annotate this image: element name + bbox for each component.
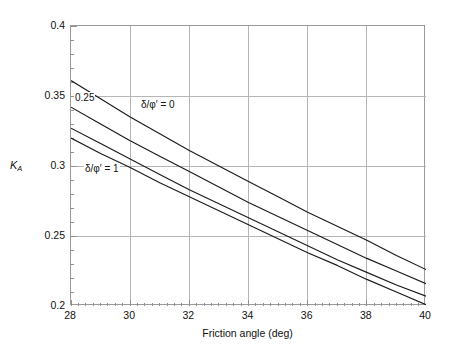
annotation-delta-phi-1: δ/φ′ = 1	[84, 163, 120, 174]
curve-2	[71, 128, 426, 296]
y-tick-label: 0.35	[45, 90, 65, 101]
y-tick-label: 0.2	[50, 300, 65, 311]
y-tick-label: 0.3	[50, 160, 65, 171]
y-axis-title: KA	[10, 159, 36, 173]
x-axis-tick-labels: 28303234363840	[0, 310, 454, 326]
plot-area	[70, 25, 425, 305]
data-curves	[71, 26, 426, 306]
x-tick-label: 32	[182, 310, 194, 321]
x-tick-label: 28	[64, 310, 76, 321]
chart-figure: 0.20.250.30.350.4 28303234363840 Frictio…	[0, 0, 454, 354]
y-tick-label: 0.25	[45, 230, 65, 241]
x-tick-label: 36	[301, 310, 313, 321]
curve-3	[71, 138, 426, 305]
x-tick-label: 40	[419, 310, 431, 321]
curve-0	[71, 81, 426, 270]
x-axis-title: Friction angle (deg)	[70, 327, 425, 339]
x-tick-label: 30	[123, 310, 135, 321]
y-axis-title-subscript: A	[17, 164, 22, 173]
annotation-ratio-025: 0.25	[74, 92, 95, 103]
y-axis-tick-labels: 0.20.250.30.350.4	[18, 0, 65, 354]
annotation-delta-phi-0: δ/φ′ = 0	[140, 99, 176, 110]
x-tick-label: 38	[360, 310, 372, 321]
y-tick-label: 0.4	[50, 20, 65, 31]
curve-1	[71, 107, 426, 283]
x-tick-label: 34	[242, 310, 254, 321]
